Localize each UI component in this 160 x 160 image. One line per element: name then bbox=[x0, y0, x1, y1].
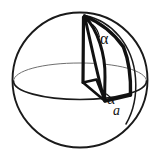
figure-canvas bbox=[0, 0, 160, 160]
equator-back-arc bbox=[14, 63, 147, 81]
sphere-wedge-figure: α α a bbox=[0, 0, 160, 160]
label-edge-a: a bbox=[113, 104, 120, 118]
label-alpha-top: α bbox=[100, 31, 108, 47]
sphere-outline-circle bbox=[13, 13, 148, 148]
polar-axis-line bbox=[83, 17, 84, 83]
